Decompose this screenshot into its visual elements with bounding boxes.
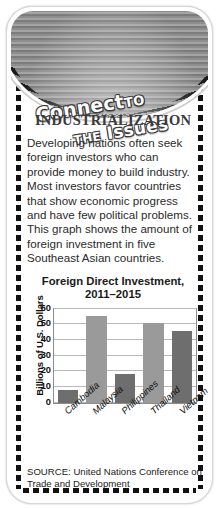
chart-x-axis-labels: CambodiaMalaysiaPhilippinesThailandVietn…	[53, 404, 197, 458]
chart-title: Foreign Direct Investment, 2011–2015	[27, 275, 199, 302]
card-inner: ConnectTO THE Issues INDUSTRIALIZATION D…	[11, 11, 208, 499]
chart-y-tick-label: 50	[41, 318, 51, 328]
bar-chart: Billions of U.S. Dollars 0102030405060 C…	[27, 306, 199, 458]
banner-word-to: TO	[123, 92, 146, 110]
chart-bar-cell	[54, 309, 82, 403]
chart-y-tick-label: 10	[41, 381, 51, 391]
chart-title-line2: 2011–2015	[27, 288, 199, 302]
connect-to-the-issues-card: ConnectTO THE Issues INDUSTRIALIZATION D…	[6, 6, 213, 504]
page-title: INDUSTRIALIZATION	[27, 112, 199, 129]
article-content: INDUSTRIALIZATION Developing nations oft…	[27, 112, 199, 458]
chart-y-tick-label: 30	[41, 350, 51, 360]
chart-y-tick-label: 60	[41, 303, 51, 313]
chart-y-tick-label: 20	[41, 365, 51, 375]
body-paragraph: Developing nations often seek foreign in…	[27, 136, 199, 266]
chart-y-tick-label: 40	[41, 334, 51, 344]
source-note: SOURCE: United Nations Conference on Tra…	[27, 466, 203, 489]
chart-title-line1: Foreign Direct Investment,	[27, 275, 199, 289]
chart-y-tick-label: 0	[46, 397, 51, 407]
